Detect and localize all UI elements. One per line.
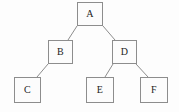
tree-node-b-label: B xyxy=(57,47,64,57)
tree-edge-a-b xyxy=(68,26,77,40)
tree-node-f[interactable]: F xyxy=(140,77,168,103)
tree-node-a-label: A xyxy=(86,9,93,19)
tree-node-d[interactable]: D xyxy=(112,40,137,64)
tree-node-f-label: F xyxy=(151,85,157,95)
tree-edge-a-d xyxy=(103,26,115,40)
tree-node-c[interactable]: C xyxy=(14,77,41,103)
tree-edge-d-e xyxy=(105,64,113,77)
binary-tree-diagram: A B D C E F xyxy=(0,0,179,112)
tree-node-d-label: D xyxy=(121,47,128,57)
tree-node-a[interactable]: A xyxy=(77,2,103,26)
tree-edge-b-c xyxy=(37,64,48,77)
tree-node-b[interactable]: B xyxy=(48,40,73,64)
tree-edge-d-f xyxy=(136,64,148,77)
tree-node-c-label: C xyxy=(24,85,31,95)
tree-node-e[interactable]: E xyxy=(86,77,114,103)
tree-node-e-label: E xyxy=(97,85,103,95)
